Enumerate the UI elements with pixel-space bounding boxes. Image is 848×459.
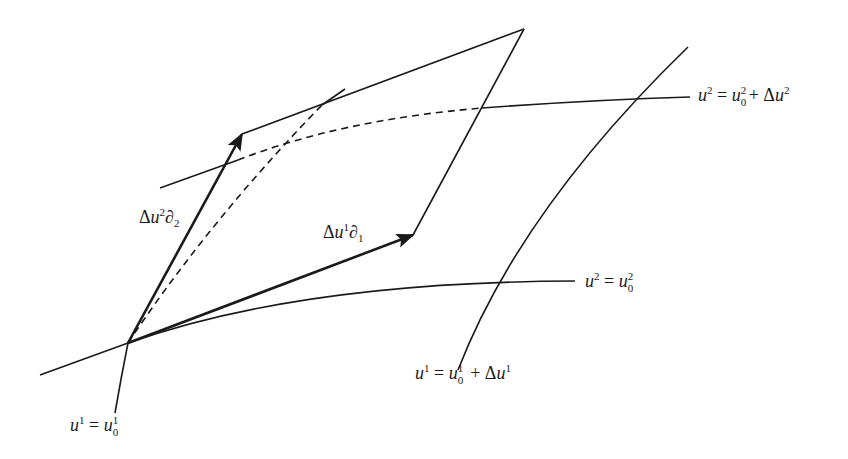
- label-var: u: [104, 415, 113, 435]
- label-partial: ∂: [165, 207, 174, 227]
- label-var: u: [698, 85, 707, 105]
- label-curve-u1-plus-delta: u1 = u10 + Δu1: [415, 364, 511, 382]
- label-delta: Δ: [323, 222, 335, 242]
- label-vector-2: Δu2∂2: [139, 208, 179, 226]
- label-supsub: 10: [458, 378, 466, 379]
- label-sub: 1: [358, 232, 364, 244]
- label-sup: 1: [344, 221, 350, 233]
- label-var: u: [151, 207, 160, 227]
- label-var: u: [70, 415, 79, 435]
- diagram-canvas: [0, 0, 848, 459]
- label-sup: 1: [424, 362, 430, 374]
- label-eq: =: [434, 363, 444, 383]
- label-var: u: [449, 363, 458, 383]
- vector-delta-u1-d1: [128, 235, 413, 343]
- label-var: u: [585, 271, 594, 291]
- label-plus: +: [749, 85, 759, 105]
- parallelogram-right-edge: [413, 29, 524, 235]
- label-var: u: [619, 271, 628, 291]
- parallelogram-top-edge: [242, 29, 524, 134]
- label-eq: =: [89, 415, 99, 435]
- coordinate-patch-diagram: u2 = u20+ Δu2 u2 = u20 u1 = u10 + Δu1 u1…: [0, 0, 848, 459]
- label-supsub: 20: [628, 286, 636, 287]
- label-delta: Δ: [139, 207, 151, 227]
- label-supsub: 20: [741, 100, 749, 101]
- label-vector-1: Δu1∂1: [323, 223, 363, 241]
- curve-u1-equals-u10-lower: [115, 343, 128, 413]
- label-curve-u1-equals-u10: u1 = u10: [70, 416, 121, 434]
- vector-delta-u2-d2: [128, 134, 242, 343]
- label-eq: =: [604, 271, 614, 291]
- curve-u2-equals-u20: [40, 281, 575, 375]
- label-var: u: [732, 85, 741, 105]
- label-sup: 2: [160, 206, 166, 218]
- label-delta: Δ: [485, 363, 497, 383]
- label-sup: 2: [784, 84, 790, 96]
- label-var: u: [775, 85, 784, 105]
- label-plus: +: [470, 363, 480, 383]
- label-sup: 1: [505, 362, 511, 374]
- curve-u2-plus-delta-right: [482, 97, 690, 108]
- label-sup: 1: [79, 414, 85, 426]
- label-sup: 2: [707, 84, 713, 96]
- label-var: u: [415, 363, 424, 383]
- label-sub: 2: [174, 217, 180, 229]
- label-supsub: 10: [113, 430, 121, 431]
- curve-u2-plus-delta-dashed: [238, 108, 482, 160]
- label-eq: =: [717, 85, 727, 105]
- label-curve-u2-equals-u20: u2 = u20: [585, 272, 636, 290]
- label-sup: 2: [594, 270, 600, 282]
- curve-u1-plus-delta: [458, 47, 688, 370]
- label-partial: ∂: [349, 222, 358, 242]
- label-curve-u2-plus-delta: u2 = u20+ Δu2: [698, 86, 789, 104]
- label-var: u: [335, 222, 344, 242]
- label-delta: Δ: [763, 85, 775, 105]
